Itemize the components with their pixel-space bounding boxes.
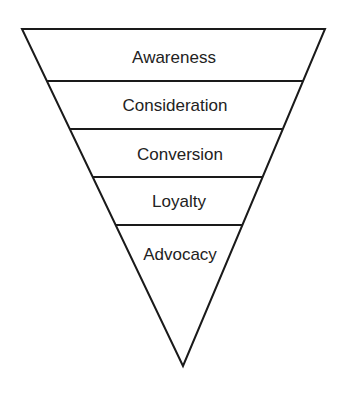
stage-advocacy: Advocacy [143,245,217,264]
funnel-diagram: Awareness Consideration Conversion Loyal… [0,0,340,397]
stage-awareness: Awareness [132,48,216,67]
stage-loyalty: Loyalty [152,192,206,211]
stage-conversion: Conversion [137,145,223,164]
stage-consideration: Consideration [123,96,228,115]
